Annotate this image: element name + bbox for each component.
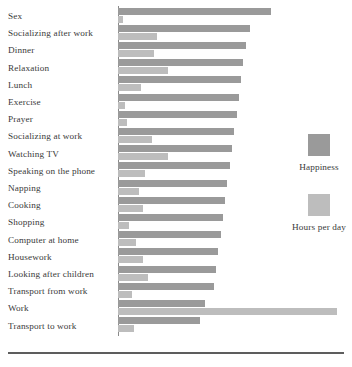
bar-row: Transport to work: [0, 316, 352, 336]
legend-swatch-happiness-icon: [308, 134, 330, 156]
happiness-hours-bar-chart: SexSocializing after workDinnerRelaxatio…: [0, 0, 352, 367]
bar-happiness: [118, 248, 218, 255]
category-label: Dinner: [8, 45, 34, 56]
bar-happiness: [118, 111, 237, 118]
bar-hours-per-day: [118, 188, 139, 195]
bar-hours-per-day: [118, 84, 141, 91]
category-label: Napping: [8, 183, 41, 194]
bar-hours-per-day: [118, 16, 123, 23]
category-label: Looking after children: [8, 269, 94, 280]
bar-hours-per-day: [118, 50, 154, 57]
category-label: Watching TV: [8, 148, 59, 159]
legend-swatch-hours-per-day-icon: [308, 194, 330, 216]
legend-label-happiness: Happiness: [286, 162, 352, 173]
category-label: Transport from work: [8, 286, 88, 297]
bar-hours-per-day: [118, 274, 148, 281]
bar-happiness: [118, 76, 241, 83]
bar-group: [118, 316, 352, 336]
bar-hours-per-day: [118, 239, 136, 246]
bar-happiness: [118, 283, 214, 290]
bar-hours-per-day: [118, 256, 143, 263]
category-label: Prayer: [8, 114, 33, 125]
category-label: Computer at home: [8, 234, 79, 245]
bar-happiness: [118, 300, 205, 307]
category-label: Shopping: [8, 217, 44, 228]
bar-happiness: [118, 94, 239, 101]
category-label: Work: [8, 303, 29, 314]
bar-happiness: [118, 180, 227, 187]
bar-happiness: [118, 317, 200, 324]
bar-hours-per-day: [118, 291, 132, 298]
bar-happiness: [118, 145, 232, 152]
bar-happiness: [118, 266, 216, 273]
legend-label-hours-per-day: Hours per day: [286, 222, 352, 233]
bar-hours-per-day: [118, 222, 129, 229]
bar-hours-per-day: [118, 205, 143, 212]
bar-hours-per-day: [118, 170, 145, 177]
category-label: Lunch: [8, 79, 32, 90]
bar-happiness: [118, 214, 223, 221]
bar-happiness: [118, 231, 221, 238]
category-label: Transport to work: [8, 320, 77, 331]
category-label: Cooking: [8, 200, 41, 211]
category-label: Speaking on the phone: [8, 165, 95, 176]
footer-divider: [8, 352, 344, 354]
bar-happiness: [118, 8, 271, 15]
category-label: Housework: [8, 251, 52, 262]
bar-hours-per-day: [118, 102, 125, 109]
bar-hours-per-day: [118, 308, 337, 315]
bar-hours-per-day: [118, 136, 152, 143]
category-label: Relaxation: [8, 62, 49, 73]
legend-entry-happiness: Happiness: [286, 134, 352, 173]
category-label: Socializing after work: [8, 28, 93, 39]
bar-happiness: [118, 59, 243, 66]
bar-hours-per-day: [118, 119, 127, 126]
bar-happiness: [118, 25, 250, 32]
bar-hours-per-day: [118, 33, 157, 40]
bar-hours-per-day: [118, 153, 168, 160]
bar-happiness: [118, 162, 230, 169]
bar-happiness: [118, 42, 246, 49]
bar-happiness: [118, 128, 234, 135]
category-label: Socializing at work: [8, 131, 82, 142]
category-label: Exercise: [8, 97, 41, 108]
bar-hours-per-day: [118, 325, 134, 332]
bar-happiness: [118, 197, 225, 204]
legend-entry-hours-per-day: Hours per day: [286, 194, 352, 233]
bar-hours-per-day: [118, 67, 168, 74]
category-label: Sex: [8, 11, 22, 22]
